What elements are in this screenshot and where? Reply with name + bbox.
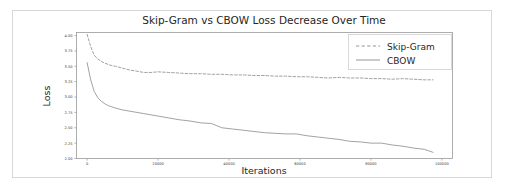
x-tick-label: 0 <box>86 162 89 166</box>
legend-label-skip-gram: Skip-Gram <box>387 42 435 52</box>
y-tick-label: 3.00 <box>64 95 73 99</box>
figure-canvas: Skip-Gram vs CBOW Loss Decrease Over Tim… <box>0 0 506 189</box>
chart-title: Skip-Gram vs CBOW Loss Decrease Over Tim… <box>142 14 386 26</box>
x-axis-label: Iterations <box>241 165 286 176</box>
y-tick-label: 2.25 <box>64 142 72 146</box>
y-tick-label: 2.50 <box>64 126 73 130</box>
series-line-cbow <box>87 63 433 153</box>
y-tick-label: 4.00 <box>64 34 73 38</box>
y-tick-label: 3.75 <box>64 49 72 53</box>
y-tick-label: 2.00 <box>64 157 73 161</box>
x-tick-label: 60000 <box>294 162 306 166</box>
legend-label-cbow: CBOW <box>387 56 415 66</box>
chart-svg: Skip-Gram vs CBOW Loss Decrease Over Tim… <box>0 0 506 189</box>
y-tick-label: 3.25 <box>64 80 72 84</box>
y-axis-ticks: 2.002.252.502.753.003.253.503.754.00 <box>64 34 76 161</box>
y-tick-label: 3.50 <box>64 65 73 69</box>
x-tick-label: 80000 <box>365 162 377 166</box>
x-tick-label: 20000 <box>152 162 164 166</box>
x-tick-label: 100000 <box>435 162 449 166</box>
y-axis-label: Loss <box>41 86 52 107</box>
y-tick-label: 2.75 <box>64 111 72 115</box>
legend: Skip-Gram CBOW <box>349 35 452 70</box>
x-tick-label: 40000 <box>223 162 235 166</box>
